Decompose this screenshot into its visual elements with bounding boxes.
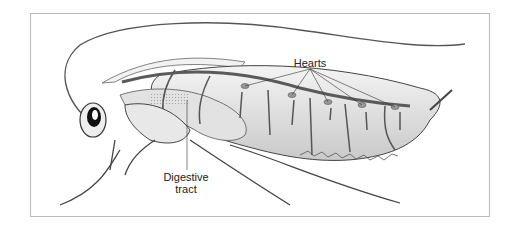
digestive-tract-label: Digestive tract — [156, 171, 216, 195]
head — [80, 103, 106, 137]
hearts-label: Hearts — [290, 57, 330, 69]
cockroach-illustration — [0, 0, 517, 232]
